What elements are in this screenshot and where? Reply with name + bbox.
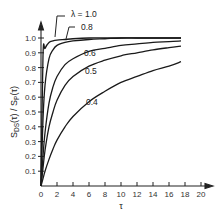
x-tick-label: 16 <box>165 190 174 199</box>
y-tick-label: 1.0 <box>25 34 37 43</box>
curve-label-0-4: 0.4 <box>86 97 98 107</box>
leader-line <box>66 27 75 39</box>
curve-label-lambda-1-0: λ = 1.0 <box>71 9 97 19</box>
x-tick-label: 6 <box>87 190 92 199</box>
curve-label-0-8: 0.8 <box>81 22 93 32</box>
ticks <box>38 38 201 186</box>
x-tick-label: 0 <box>39 190 44 199</box>
curve-lambda-0-8 <box>41 38 181 186</box>
y-tick-label: 0.5 <box>25 108 37 117</box>
leader-line <box>55 16 65 37</box>
y-tick-label: 0.1 <box>25 167 37 176</box>
svg-text:SDS(τ) / SP(τ): SDS(τ) / SP(τ) <box>9 86 20 138</box>
y-axis-arrow-icon <box>39 22 44 30</box>
y-tick-label: 0.9 <box>25 49 37 58</box>
x-tick-label: 8 <box>103 190 108 199</box>
y-tick-label: 0.3 <box>25 138 37 147</box>
curve-lambda-0-6 <box>41 41 181 186</box>
chart: 024681012141618200.10.20.30.40.50.60.70.… <box>0 0 224 211</box>
x-tick-label: 12 <box>133 190 142 199</box>
curve-label-0-5: 0.5 <box>85 66 97 76</box>
x-tick-label: 10 <box>117 190 126 199</box>
axes <box>39 22 214 189</box>
x-tick-label: 18 <box>181 190 190 199</box>
curve-label-0-6: 0.6 <box>84 48 96 58</box>
x-tick-label: 20 <box>197 190 206 199</box>
x-axis-arrow-icon <box>205 184 213 189</box>
x-axis-label: τ <box>119 201 123 211</box>
curves <box>41 38 181 186</box>
y-tick-label: 0.7 <box>25 78 37 87</box>
x-tick-label: 4 <box>71 190 76 199</box>
curve-lambda-1-0 <box>41 38 181 186</box>
curve-lambda-0-4 <box>41 62 181 186</box>
x-tick-label: 14 <box>149 190 158 199</box>
y-tick-label: 0.4 <box>25 123 37 132</box>
y-tick-label: 0.2 <box>25 152 37 161</box>
x-tick-label: 2 <box>55 190 60 199</box>
y-tick-label: 0.6 <box>25 93 37 102</box>
curve-lambda-0-5 <box>41 46 181 186</box>
y-axis-label: SDS(τ) / SP(τ) <box>9 86 20 138</box>
y-tick-label: 0.8 <box>25 64 37 73</box>
